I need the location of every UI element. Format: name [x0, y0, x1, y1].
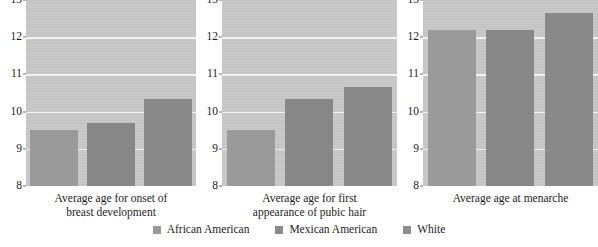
- legend-item: Mexican American: [275, 224, 377, 236]
- y-axis-tick-label: 13: [11, 0, 23, 6]
- bar: [87, 123, 135, 186]
- plot-wrapper: 8910111213: [0, 0, 196, 186]
- panel-caption-line: Average age at menarche: [423, 192, 598, 206]
- y-axis-tick-label: 12: [207, 31, 219, 43]
- chart-panel: 8910111213Average age at menarche: [397, 0, 598, 218]
- y-axis: 8910111213: [0, 0, 26, 186]
- bar: [545, 13, 593, 186]
- y-axis-tick-label: 13: [207, 0, 219, 6]
- y-axis-tick-label: 12: [408, 31, 420, 43]
- panel-caption: Average age at menarche: [397, 192, 598, 206]
- y-axis-tick-label: 9: [16, 143, 22, 155]
- y-axis-tick-label: 10: [207, 106, 219, 118]
- y-axis-tick-label: 8: [212, 180, 218, 192]
- plot-wrapper: 8910111213: [196, 0, 397, 186]
- chart-legend: African AmericanMexican AmericanWhite: [0, 224, 598, 236]
- panel-caption-line: appearance of pubic hair: [222, 206, 397, 220]
- figure: 8910111213Average age for onset ofbreast…: [0, 0, 598, 247]
- legend-swatch-icon: [153, 226, 161, 234]
- legend-label: Mexican American: [289, 224, 377, 236]
- bar-group: [423, 0, 598, 186]
- y-axis-tick-label: 10: [11, 106, 23, 118]
- bar: [227, 130, 275, 186]
- y-axis-tick-label: 8: [16, 180, 22, 192]
- plot-area: [222, 0, 397, 186]
- panel-caption-line: Average age for first: [222, 192, 397, 206]
- plot-area: [423, 0, 598, 186]
- bar: [486, 30, 534, 186]
- legend-item: African American: [153, 224, 250, 236]
- plot-wrapper: 8910111213: [397, 0, 598, 186]
- bar-group: [222, 0, 397, 186]
- panel-row: 8910111213Average age for onset ofbreast…: [0, 0, 598, 218]
- bar: [344, 87, 392, 186]
- bar: [30, 130, 78, 186]
- panel-caption-line: Average age for onset of: [26, 192, 196, 206]
- y-axis-tick-label: 11: [11, 69, 22, 81]
- bar: [428, 30, 476, 186]
- y-axis-tick-label: 9: [413, 143, 419, 155]
- legend-label: White: [417, 224, 445, 236]
- legend-item: White: [403, 224, 445, 236]
- legend-swatch-icon: [403, 226, 411, 234]
- y-axis: 8910111213: [397, 0, 423, 186]
- legend-swatch-icon: [275, 226, 283, 234]
- panel-caption-line: breast development: [26, 206, 196, 220]
- y-axis: 8910111213: [196, 0, 222, 186]
- y-axis-tick-label: 10: [408, 106, 420, 118]
- panel-caption: Average age for onset ofbreast developme…: [0, 192, 196, 219]
- y-axis-tick-label: 9: [212, 143, 218, 155]
- legend-label: African American: [167, 224, 250, 236]
- y-axis-tick-label: 12: [11, 31, 23, 43]
- y-axis-tick-label: 8: [413, 180, 419, 192]
- panel-caption: Average age for firstappearance of pubic…: [196, 192, 397, 219]
- bar: [144, 99, 192, 186]
- y-axis-tick-label: 11: [408, 69, 419, 81]
- y-axis-tick-label: 11: [207, 69, 218, 81]
- bar-group: [26, 0, 196, 186]
- plot-area: [26, 0, 196, 186]
- chart-panel: 8910111213Average age for onset ofbreast…: [0, 0, 196, 218]
- bar: [285, 99, 333, 186]
- y-axis-tick-label: 13: [408, 0, 420, 6]
- chart-panel: 8910111213Average age for firstappearanc…: [196, 0, 397, 218]
